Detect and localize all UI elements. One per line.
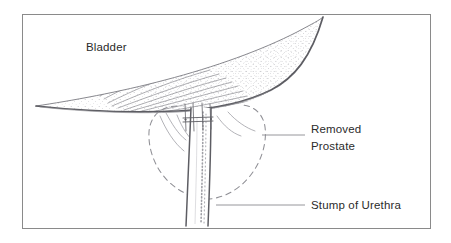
illustration-canvas: Bladder Removed Prostate Stump of Urethr… [0, 0, 451, 243]
urethral-stump-shape [186, 108, 211, 226]
removed-prostate-label-line1: Removed [311, 123, 361, 135]
stump-of-urethra-label: Stump of Urethra [311, 199, 401, 211]
removed-prostate-label-line2: Prostate [311, 140, 355, 152]
bladder-label: Bladder [86, 41, 127, 53]
figure-border [23, 15, 431, 229]
illustration-figure: Bladder Removed Prostate Stump of Urethr… [0, 0, 451, 243]
